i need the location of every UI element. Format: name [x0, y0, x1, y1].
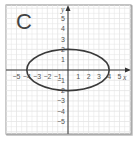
x-tick-label: 1	[76, 73, 80, 80]
y-tick-label: 5	[61, 15, 65, 22]
y-axis-label: y	[60, 5, 65, 14]
y-tick-label: 3	[61, 36, 65, 43]
x-tick-label: 2	[87, 73, 91, 80]
panel-label: C	[16, 9, 32, 34]
x-axis-label: x	[122, 73, 127, 82]
coordinate-graph: −5−4−3−2−11234554321−1−2−3−4−5 x y C	[0, 0, 138, 145]
y-tick-label: −5	[57, 118, 65, 125]
x-tick-label: 3	[97, 73, 101, 80]
x-tick-label: −3	[33, 73, 41, 80]
x-tick-label: −5	[13, 73, 21, 80]
y-tick-label: −1	[57, 77, 65, 84]
y-tick-label: −3	[57, 97, 65, 104]
x-tick-label: −2	[43, 73, 51, 80]
y-tick-label: −4	[57, 108, 65, 115]
y-tick-label: 1	[61, 56, 65, 63]
x-tick-label: 5	[118, 73, 122, 80]
y-tick-label: 4	[61, 25, 65, 32]
